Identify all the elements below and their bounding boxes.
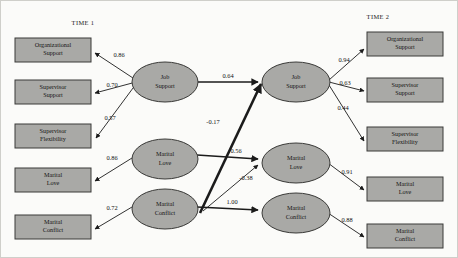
indicator-box-t1-supervisor-support: Supervisor Support bbox=[15, 80, 91, 104]
indicator-box-t2-marital-conflict: Marital Conflict bbox=[367, 224, 443, 248]
coef-mc-t1-to-mc-t2: 1.00 bbox=[226, 198, 237, 205]
coef-ml-t1-to-ml-t2: 0.56 bbox=[230, 147, 241, 154]
latent-label-line2: Conflict bbox=[155, 209, 176, 216]
indicator-label-line1: Supervisor bbox=[392, 130, 419, 137]
diagram-canvas: TIME 1 TIME 2 Organizational Support Sup… bbox=[0, 0, 458, 258]
indicator-label-line1: Supervisor bbox=[392, 81, 419, 88]
indicator-label-line1: Supervisor bbox=[40, 83, 67, 90]
indicator-label-line2: Conflict bbox=[43, 226, 64, 233]
coef-js-t1-to-js-t2: 0.64 bbox=[222, 72, 234, 79]
latent-ellipse-t1-marital-conflict: Marital Conflict bbox=[132, 189, 198, 229]
time2-heading: TIME 2 bbox=[367, 13, 390, 20]
latent-label-line1: Marital bbox=[287, 154, 305, 161]
latent-ellipse-t2-marital-love: Marital Love bbox=[262, 143, 330, 183]
path-t1-maritallove-to-marital-love bbox=[95, 158, 132, 181]
latent-label-line2: Support bbox=[286, 82, 306, 89]
indicator-label-line2: Support bbox=[43, 91, 63, 98]
coef-t2-js-org-support: 0.94 bbox=[338, 56, 350, 63]
indicator-label-line2: Flexibility bbox=[40, 135, 67, 142]
coef-t1-js-sup-support: 0.70 bbox=[106, 81, 117, 88]
indicator-label-line1: Marital bbox=[44, 218, 62, 225]
indicator-label-line2: Conflict bbox=[395, 235, 416, 242]
latent-label-line1: Marital bbox=[287, 204, 305, 211]
indicator-box-t2-org-support: Organizational Support bbox=[367, 32, 443, 56]
indicator-label-line1: Organizational bbox=[35, 41, 72, 48]
indicator-label-line2: Support bbox=[395, 89, 415, 96]
coef-t2-js-sup-support: 0.63 bbox=[339, 79, 350, 86]
coef-t1-mc-marital-conflict: 0.72 bbox=[106, 204, 117, 211]
indicator-box-t1-supervisor-flexibility: Supervisor Flexibility bbox=[15, 124, 91, 148]
latent-ellipse-t1-job-support: Job Support bbox=[132, 62, 198, 102]
latent-label-line2: Love bbox=[290, 163, 303, 170]
latent-label-line1: Marital bbox=[156, 150, 174, 157]
time1-heading: TIME 1 bbox=[72, 19, 95, 26]
indicator-box-t1-marital-love: Marital Love bbox=[15, 168, 91, 192]
latent-ellipse-t2-job-support: Job Support bbox=[262, 62, 330, 102]
latent-label-line2: Support bbox=[155, 82, 175, 89]
path-t2-jobsupport-to-sup-flex bbox=[329, 85, 364, 141]
indicator-box-t2-supervisor-flexibility: Supervisor Flexibility bbox=[367, 127, 443, 151]
path-t1-jobsupport-to-sup-flex bbox=[96, 84, 136, 138]
indicator-box-t2-marital-love: Marital Love bbox=[367, 177, 443, 201]
latent-label-line1: Job bbox=[161, 73, 170, 80]
indicator-label-line1: Organizational bbox=[387, 35, 424, 42]
coef-t2-mc-marital-conflict: 0.88 bbox=[341, 216, 352, 223]
indicator-label-line1: Marital bbox=[396, 180, 414, 187]
sem-path-diagram: TIME 1 TIME 2 Organizational Support Sup… bbox=[0, 0, 458, 258]
coef-t2-js-sup-flex: 0.44 bbox=[337, 104, 349, 111]
indicator-box-t2-supervisor-support: Supervisor Support bbox=[367, 78, 443, 102]
coef-t1-js-sup-flex: 0.57 bbox=[104, 114, 116, 121]
indicator-label-line2: Flexibility bbox=[392, 138, 419, 145]
indicator-label-line2: Love bbox=[399, 188, 412, 195]
indicator-label-line2: Support bbox=[395, 43, 415, 50]
path-t2-jobsupport-to-org-support bbox=[329, 49, 364, 80]
indicator-label-line1: Marital bbox=[44, 171, 62, 178]
coef-mc-t1-to-js-t2: -0.17 bbox=[206, 118, 220, 125]
latent-ellipse-t1-marital-love: Marital Love bbox=[132, 139, 198, 179]
latent-label-line1: Job bbox=[292, 73, 301, 80]
indicator-label-line2: Support bbox=[43, 49, 63, 56]
latent-label-line2: Love bbox=[159, 159, 172, 166]
coef-t2-ml-marital-love: 0.91 bbox=[341, 168, 352, 175]
indicator-label-line2: Love bbox=[47, 179, 60, 186]
indicator-box-t1-org-support: Organizational Support bbox=[15, 38, 91, 62]
latent-label-line1: Marital bbox=[156, 200, 174, 207]
coef-mc-t1-to-ml-t2: -0.38 bbox=[239, 174, 252, 181]
indicator-label-line1: Supervisor bbox=[40, 127, 67, 134]
coef-t1-ml-marital-love: 0.86 bbox=[106, 154, 117, 161]
latent-ellipse-t2-marital-conflict: Marital Conflict bbox=[262, 193, 330, 233]
indicator-label-line1: Marital bbox=[396, 227, 414, 234]
indicator-box-t1-marital-conflict: Marital Conflict bbox=[15, 215, 91, 239]
latent-label-line2: Conflict bbox=[286, 213, 307, 220]
coef-t1-js-org-support: 0.86 bbox=[113, 51, 124, 58]
